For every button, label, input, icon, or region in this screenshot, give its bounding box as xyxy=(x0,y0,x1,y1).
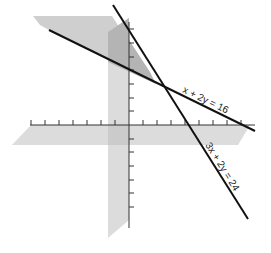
region-overlap-bottom xyxy=(108,125,129,145)
graph-figure: x + 2y = 16 3x + 2y = 24 xyxy=(0,0,271,253)
line-x-plus-2y-16 xyxy=(49,30,255,131)
label-line1: x + 2y = 16 xyxy=(181,84,231,116)
label-line2: 3x + 2y = 24 xyxy=(203,140,242,193)
x-axis-ticks xyxy=(31,120,241,125)
line-3x-plus-2y-24 xyxy=(113,5,248,219)
